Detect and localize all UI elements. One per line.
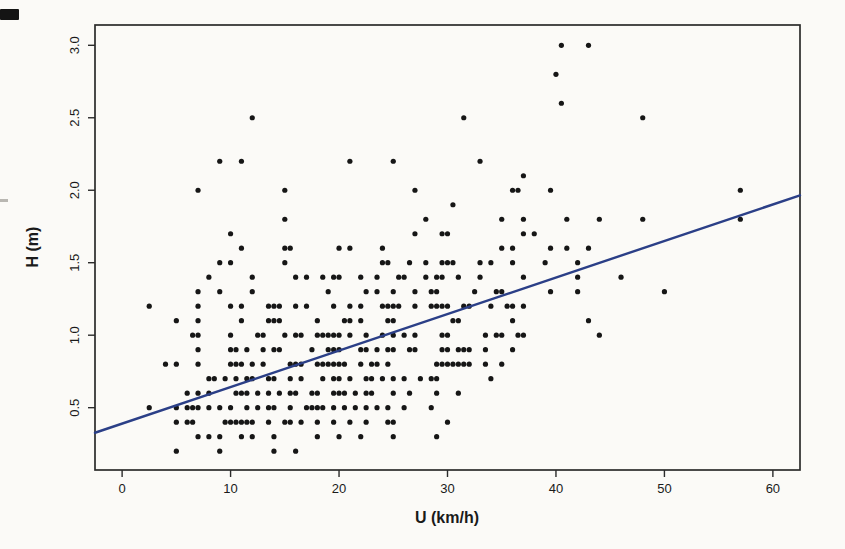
- data-point: [326, 347, 331, 352]
- data-point: [358, 304, 363, 309]
- data-point: [326, 333, 331, 338]
- data-point: [396, 275, 401, 280]
- data-point: [385, 260, 390, 265]
- data-point: [412, 231, 417, 236]
- data-point: [217, 434, 222, 439]
- data-point: [315, 405, 320, 410]
- x-tick-label: 30: [440, 481, 454, 496]
- data-point: [597, 217, 602, 222]
- data-point: [271, 449, 276, 454]
- data-point: [738, 217, 743, 222]
- data-point: [195, 188, 200, 193]
- data-point: [250, 289, 255, 294]
- data-point: [640, 217, 645, 222]
- data-point: [575, 260, 580, 265]
- data-point: [434, 304, 439, 309]
- data-point: [228, 304, 233, 309]
- data-point: [163, 362, 168, 367]
- data-point: [548, 289, 553, 294]
- data-point: [369, 376, 374, 381]
- data-point: [450, 260, 455, 265]
- data-point: [255, 405, 260, 410]
- data-point: [564, 217, 569, 222]
- data-point: [559, 43, 564, 48]
- data-point: [402, 333, 407, 338]
- scanned-chart-page: 01020304050600.51.01.52.02.53.0 U (km/h)…: [0, 0, 845, 549]
- data-point: [315, 318, 320, 323]
- data-point: [364, 405, 369, 410]
- data-point: [315, 391, 320, 396]
- data-point: [418, 376, 423, 381]
- data-point: [521, 217, 526, 222]
- data-point: [445, 362, 450, 367]
- data-point: [445, 231, 450, 236]
- data-point: [586, 318, 591, 323]
- data-point: [336, 333, 341, 338]
- data-point: [564, 246, 569, 251]
- data-point: [380, 260, 385, 265]
- data-point: [521, 333, 526, 338]
- data-point: [331, 362, 336, 367]
- data-point: [288, 405, 293, 410]
- plot-box: [95, 25, 800, 470]
- data-point: [347, 376, 352, 381]
- data-point: [369, 362, 374, 367]
- data-point: [336, 376, 341, 381]
- data-point: [185, 405, 190, 410]
- data-point: [239, 318, 244, 323]
- data-point: [439, 333, 444, 338]
- data-point: [488, 376, 493, 381]
- data-point: [347, 304, 352, 309]
- data-point: [244, 405, 249, 410]
- data-point: [358, 362, 363, 367]
- data-point: [282, 260, 287, 265]
- data-point: [364, 289, 369, 294]
- data-point: [380, 246, 385, 251]
- data-point: [293, 391, 298, 396]
- data-point: [320, 376, 325, 381]
- data-point: [456, 362, 461, 367]
- data-point: [499, 333, 504, 338]
- y-tick-label: 1.5: [67, 254, 82, 272]
- data-point: [315, 434, 320, 439]
- data-point: [223, 420, 228, 425]
- data-point: [358, 318, 363, 323]
- data-point: [244, 391, 249, 396]
- data-point: [439, 347, 444, 352]
- data-point: [331, 304, 336, 309]
- data-point: [190, 420, 195, 425]
- data-point: [239, 304, 244, 309]
- data-point: [402, 376, 407, 381]
- data-point: [412, 289, 417, 294]
- data-point: [483, 333, 488, 338]
- data-point: [439, 362, 444, 367]
- data-point: [347, 159, 352, 164]
- data-point: [543, 260, 548, 265]
- data-point: [510, 318, 515, 323]
- data-point: [510, 304, 515, 309]
- data-point: [374, 275, 379, 280]
- x-tick-label: 50: [657, 481, 671, 496]
- data-point: [640, 115, 645, 120]
- data-point: [391, 318, 396, 323]
- data-point: [505, 304, 510, 309]
- data-point: [358, 434, 363, 439]
- data-point: [195, 391, 200, 396]
- data-point: [374, 405, 379, 410]
- data-point: [510, 260, 515, 265]
- data-point: [450, 202, 455, 207]
- x-tick-label: 40: [549, 481, 563, 496]
- y-tick-label: 3.0: [67, 36, 82, 54]
- data-point: [277, 391, 282, 396]
- data-point: [407, 391, 412, 396]
- data-point: [586, 43, 591, 48]
- data-point: [429, 405, 434, 410]
- data-point: [293, 333, 298, 338]
- data-point: [364, 347, 369, 352]
- data-point: [331, 376, 336, 381]
- data-point: [288, 420, 293, 425]
- data-point: [439, 304, 444, 309]
- data-point: [412, 333, 417, 338]
- x-tick-label: 60: [766, 481, 780, 496]
- data-point: [233, 376, 238, 381]
